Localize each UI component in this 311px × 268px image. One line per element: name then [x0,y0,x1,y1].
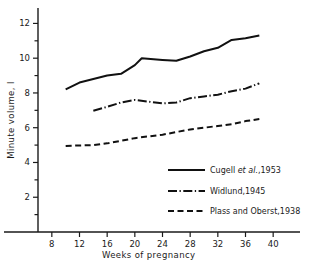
legend-label: Plass and Oberst,1938 [210,207,300,216]
series-cugell [66,36,260,90]
x-tick-label: 20 [129,239,140,249]
chart-figure: 2468101281216202428323640Weeks of pregna… [0,0,311,268]
y-tick-label: 6 [25,123,30,133]
x-tick-label: 32 [212,239,223,249]
x-tick-label: 24 [157,239,168,249]
y-tick-label: 10 [19,53,30,63]
y-axis-title: Minute volume, l [6,81,16,158]
legend-label: Cugell et al.,1953 [210,166,281,175]
x-tick-label: 40 [268,239,279,249]
x-axis-title: Weeks of pregnancy [102,250,196,260]
x-tick-label: 8 [49,239,54,249]
legend-entry: Plass and Oberst,1938 [168,207,300,216]
x-tick-label: 12 [74,239,85,249]
x-tick-label: 28 [185,239,196,249]
x-tick-label: 36 [240,239,251,249]
y-tick-label: 12 [19,18,30,28]
minute-volume-line-chart: 2468101281216202428323640Weeks of pregna… [0,0,311,268]
series-plass-oberst [66,119,260,146]
legend-entry: Cugell et al.,1953 [168,166,281,175]
legend-label: Widlund,1945 [210,187,265,196]
legend-entry: Widlund,1945 [168,187,265,196]
x-tick-label: 16 [102,239,113,249]
y-tick-label: 2 [25,192,30,202]
series-widlund [93,83,259,110]
y-tick-label: 8 [25,88,30,98]
y-tick-label: 4 [25,157,30,167]
